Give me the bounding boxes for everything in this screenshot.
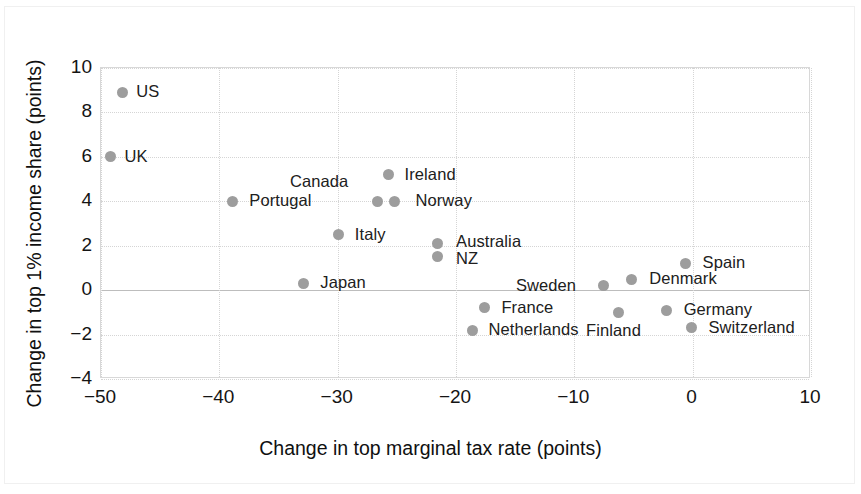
y-tick-label: 10: [71, 56, 92, 78]
data-point: [372, 196, 383, 207]
x-axis-label: Change in top marginal tax rate (points): [0, 437, 861, 460]
gridline-y-2: [101, 246, 809, 247]
point-label: Sweden: [516, 276, 576, 295]
data-point: [432, 238, 443, 249]
gridline-y-10: [101, 68, 809, 69]
gridline-y--4: [101, 379, 809, 380]
point-label: Canada: [290, 172, 348, 191]
point-label: Ireland: [405, 165, 456, 184]
x-tick-label: −10: [557, 386, 589, 408]
point-label: Italy: [355, 225, 386, 244]
point-label: US: [136, 82, 159, 101]
data-point: [613, 307, 624, 318]
point-label: Switzerland: [708, 318, 794, 337]
gridline-y-8: [101, 112, 809, 113]
x-tick-label: −40: [202, 386, 234, 408]
data-point: [686, 322, 697, 333]
point-label: Portugal: [249, 191, 311, 210]
gridline-x-10: [811, 68, 812, 377]
y-axis-ticks: 1086420−2−4: [36, 0, 92, 494]
gridline-y-0: [101, 290, 809, 291]
data-point: [626, 274, 637, 285]
y-tick-label: −2: [70, 323, 92, 345]
data-point: [680, 258, 691, 269]
y-tick-label: 4: [81, 189, 92, 211]
x-tick-label: −30: [321, 386, 353, 408]
gridline-y--2: [101, 335, 809, 336]
point-label: Japan: [320, 273, 365, 292]
x-tick-label: 0: [686, 386, 697, 408]
point-label: Denmark: [649, 269, 717, 288]
gridline-x--40: [219, 68, 220, 377]
plot-area: USUKPortugalCanadaIrelandNorwayItalyAust…: [100, 67, 810, 378]
y-tick-label: 2: [81, 234, 92, 256]
data-point: [661, 305, 672, 316]
gridline-x--30: [338, 68, 339, 377]
x-axis-ticks: −50−40−30−20−10010: [0, 386, 861, 416]
point-label: France: [501, 298, 553, 317]
gridline-y-6: [101, 157, 809, 158]
data-point: [383, 169, 394, 180]
gridline-x--20: [456, 68, 457, 377]
point-label: Norway: [415, 191, 472, 210]
x-tick-label: −20: [439, 386, 471, 408]
data-point: [333, 229, 344, 240]
gridline-x--50: [101, 68, 102, 377]
y-tick-label: 6: [81, 145, 92, 167]
point-label: Germany: [684, 300, 753, 319]
y-tick-label: 0: [81, 278, 92, 300]
y-tick-label: 8: [81, 100, 92, 122]
x-tick-label: −50: [84, 386, 116, 408]
data-point: [389, 196, 400, 207]
point-label: NZ: [456, 249, 478, 268]
data-point: [298, 278, 309, 289]
point-label: Netherlands: [489, 320, 579, 339]
x-tick-label: 10: [799, 386, 820, 408]
data-point: [105, 151, 116, 162]
point-label: UK: [124, 147, 147, 166]
data-point: [227, 196, 238, 207]
data-point: [479, 302, 490, 313]
data-point: [432, 251, 443, 262]
scatter-plot-figure: Change in top 1% income share (points) 1…: [0, 0, 861, 494]
data-point: [117, 87, 128, 98]
point-label: Finland: [586, 321, 641, 340]
data-point: [467, 325, 478, 336]
